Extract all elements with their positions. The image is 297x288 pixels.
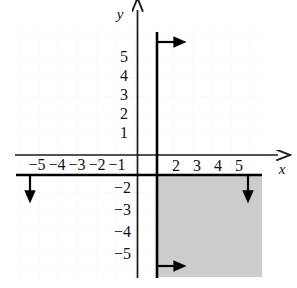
y-axis-label: y [115, 6, 124, 22]
x-tick--5: −5 [28, 156, 45, 173]
shaded-solution-region [157, 175, 262, 277]
x-tick--4: −4 [48, 156, 65, 173]
y-tick-2: 2 [120, 105, 128, 122]
x-axis-label: x [278, 161, 286, 177]
y-tick--4: −4 [114, 223, 131, 240]
x-tick--1: −1 [108, 156, 125, 173]
y-tick-positive-group: 5 4 3 2 1 [120, 48, 128, 141]
x-tick-5: 5 [235, 157, 243, 174]
x-tick-3: 3 [193, 157, 201, 174]
coordinate-plane-svg: y x −5 −4 −3 −2 −1 2 3 4 5 5 4 3 2 1 −2 … [0, 0, 297, 288]
y-tick-1: 1 [120, 124, 128, 141]
y-tick-3: 3 [120, 86, 128, 103]
graph-figure: y x −5 −4 −3 −2 −1 2 3 4 5 5 4 3 2 1 −2 … [0, 0, 297, 288]
x-tick-negative-group: −5 −4 −3 −2 −1 [28, 156, 125, 173]
y-tick-5: 5 [120, 48, 128, 65]
y-tick--5: −5 [114, 245, 131, 262]
y-tick--2: −2 [114, 179, 131, 196]
x-tick-2: 2 [172, 157, 180, 174]
x-tick--2: −2 [88, 156, 105, 173]
y-tick-4: 4 [120, 67, 128, 84]
x-tick-4: 4 [214, 157, 222, 174]
y-tick--3: −3 [114, 201, 131, 218]
x-tick--3: −3 [68, 156, 85, 173]
